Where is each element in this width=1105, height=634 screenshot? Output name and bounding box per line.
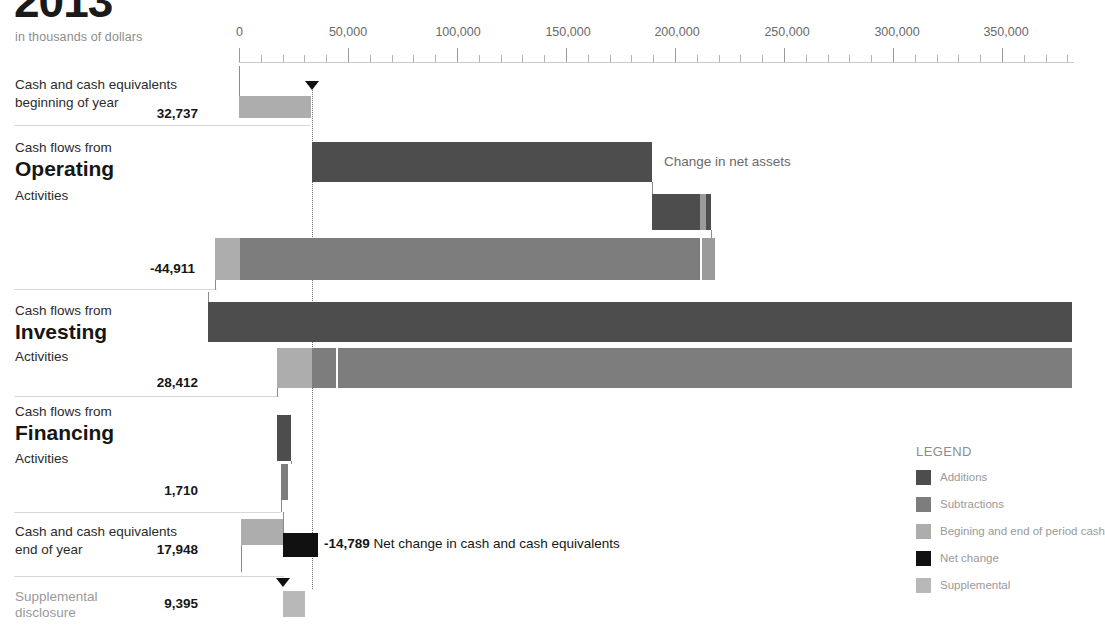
- axis-tick-minor: [762, 55, 763, 62]
- legend-item: Additions: [916, 468, 1105, 486]
- annotation-net-change-text: Net change in cash and cash equivalents: [374, 536, 620, 551]
- row-label-end-of-year-line1: Cash and cash equivalents: [15, 524, 177, 540]
- axis-tick-minor: [304, 55, 305, 62]
- axis-tick-minor: [937, 55, 938, 62]
- connector-end-of-year-b: [283, 512, 284, 533]
- axis-tick-label-200000: 200,000: [654, 25, 699, 39]
- legend: LEGEND AdditionsSubtractionsBegining and…: [916, 444, 1105, 603]
- row-separator: [14, 289, 217, 290]
- axis-tick-label-300000: 300,000: [874, 25, 919, 39]
- axis-tick-label-0: 0: [236, 25, 243, 39]
- row-value-operating: -44,911: [100, 261, 195, 276]
- legend-item: Supplemental: [916, 576, 1105, 594]
- axis-tick-label-150000: 150,000: [545, 25, 590, 39]
- row-value-supplemental: 9,395: [120, 596, 198, 611]
- axis-tick-minor: [326, 55, 327, 62]
- bar-end-of-year-net-change: [283, 533, 318, 557]
- bar-financing-subtractions: [281, 464, 288, 500]
- axis-tick-label-100000: 100,000: [435, 25, 480, 39]
- row-separator: [14, 396, 279, 397]
- axis-tick-minor: [653, 55, 654, 62]
- legend-swatch-icon: [916, 578, 931, 593]
- row-value-investing: 28,412: [100, 375, 198, 390]
- connector-investing-a: [208, 292, 209, 302]
- axis-tick-minor: [1046, 55, 1047, 62]
- bar-investing-subtractions-1: [277, 348, 312, 388]
- connector-operating-a: [652, 182, 653, 194]
- legend-item: Net change: [916, 549, 1105, 567]
- legend-swatch-icon: [916, 524, 931, 539]
- row-label-supplemental-line2: disclosure: [15, 605, 76, 621]
- row-separator: [14, 512, 281, 513]
- connector-end-of-year-a: [241, 545, 242, 572]
- axis-tick-major: [457, 48, 458, 62]
- legend-items: AdditionsSubtractionsBegining and end of…: [916, 468, 1105, 594]
- axis-tick-minor: [392, 55, 393, 62]
- bar-investing-subtractions-2: [312, 348, 336, 388]
- bar-end-of-year-cash: [241, 519, 283, 545]
- axis-baseline: [239, 62, 1074, 63]
- legend-label: Supplemental: [940, 579, 1010, 591]
- connector-investing-b: [277, 388, 278, 397]
- axis-tick-minor: [697, 55, 698, 62]
- annotation-net-change-value: -14,789: [324, 536, 370, 551]
- axis-tick-minor: [828, 55, 829, 62]
- axis-tick-minor: [544, 55, 545, 62]
- axis-tick-minor: [610, 55, 611, 62]
- bar-operating-subtractions-2: [240, 238, 700, 280]
- bar-operating-subtractions-3: [702, 238, 715, 280]
- axis-tick-minor: [871, 55, 872, 62]
- legend-swatch-icon: [916, 551, 931, 566]
- row-value-end-of-year: 17,948: [120, 542, 198, 557]
- bar-supplemental: [283, 591, 305, 617]
- axis-tick-minor: [740, 55, 741, 62]
- legend-item: Subtractions: [916, 495, 1105, 513]
- marker-triangle-supplemental: [276, 578, 290, 587]
- axis-tick-minor: [588, 55, 589, 62]
- bar-operating-additions-4: [706, 194, 711, 230]
- annotation-change-in-net-assets: Change in net assets: [664, 154, 791, 169]
- axis-tick-major: [1002, 48, 1003, 62]
- axis-tick-major: [239, 48, 240, 62]
- row-label-beginning-of-year-line1: Cash and cash equivalents: [15, 77, 177, 93]
- page-title: 2013: [14, 0, 112, 24]
- row-label-operating-line1: Cash flows from: [15, 140, 112, 156]
- axis-tick-minor: [1024, 55, 1025, 62]
- legend-item: Begining and end of period cash: [916, 522, 1105, 540]
- axis-tick-minor: [479, 55, 480, 62]
- marker-triangle-beginning: [305, 81, 319, 90]
- bar-operating-additions-2: [652, 194, 700, 230]
- bar-investing-additions: [208, 302, 1072, 342]
- axis-tick-major: [893, 48, 894, 62]
- axis-tick-minor: [522, 55, 523, 62]
- axis-tick-minor: [980, 55, 981, 62]
- legend-label: Subtractions: [940, 498, 1004, 510]
- row-label-financing-title: Financing: [15, 422, 114, 444]
- axis-tick-minor: [370, 55, 371, 62]
- legend-swatch-icon: [916, 497, 931, 512]
- axis-tick-minor: [261, 55, 262, 62]
- bar-financing-additions: [277, 415, 291, 461]
- row-label-investing-line1: Cash flows from: [15, 303, 112, 319]
- legend-label: Begining and end of period cash: [940, 525, 1105, 537]
- row-value-financing: 1,710: [100, 483, 198, 498]
- connector-operating-b: [711, 230, 712, 238]
- axis-tick-minor: [283, 55, 284, 62]
- row-label-operating-line2: Activities: [15, 188, 68, 204]
- axis-tick-major: [784, 48, 785, 62]
- legend-label: Net change: [940, 552, 999, 564]
- row-label-investing-title: Investing: [15, 321, 107, 343]
- legend-swatch-icon: [916, 470, 931, 485]
- axis-tick-minor: [915, 55, 916, 62]
- bar-operating-subtractions-1: [215, 238, 240, 280]
- connector-financing-a: [291, 461, 292, 464]
- axis-tick-label-350000: 350,000: [983, 25, 1028, 39]
- connector-financing-b: [281, 500, 282, 512]
- connector-operating-c: [215, 280, 216, 290]
- legend-label: Additions: [940, 471, 987, 483]
- row-separator: [14, 125, 310, 126]
- axis-tick-minor: [958, 55, 959, 62]
- axis-tick-minor: [849, 55, 850, 62]
- axis-tick-minor: [1067, 55, 1068, 62]
- row-label-financing-line2: Activities: [15, 451, 68, 467]
